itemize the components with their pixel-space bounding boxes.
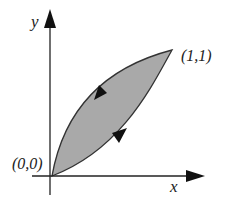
shaded-region <box>52 50 172 176</box>
y-axis-arrow-icon <box>44 9 56 28</box>
end-point-label: (1,1) <box>181 47 212 65</box>
x-axis-arrow-icon <box>186 170 205 182</box>
closed-curve-diagram: y x (0,0) (1,1) <box>0 0 228 205</box>
x-axis-label: x <box>169 177 178 196</box>
y-axis-label: y <box>29 12 39 31</box>
origin-point-label: (0,0) <box>12 155 43 173</box>
